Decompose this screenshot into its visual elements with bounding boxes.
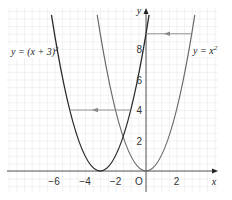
y-tick-label: 2 (136, 136, 142, 147)
y-tick-label: 4 (136, 105, 142, 116)
x-tick-label: −4 (79, 176, 91, 187)
y-tick-label: 8 (136, 44, 142, 55)
origin-label: O (135, 176, 143, 187)
x-tick-label: −2 (110, 176, 122, 187)
y-tick-label: 6 (136, 75, 142, 86)
curve-label-shifted: y = (x + 3)2 (10, 45, 59, 58)
grid (7, 8, 218, 192)
x-tick-label: −6 (48, 176, 60, 187)
x-axis-label: x (211, 176, 217, 187)
x-tick-label: 2 (174, 176, 180, 187)
graph-canvas: −6 −4 −2 O 2 2 4 6 8 x y y = (x + 3)2 y … (0, 0, 232, 200)
y-axis-label: y (136, 5, 142, 16)
